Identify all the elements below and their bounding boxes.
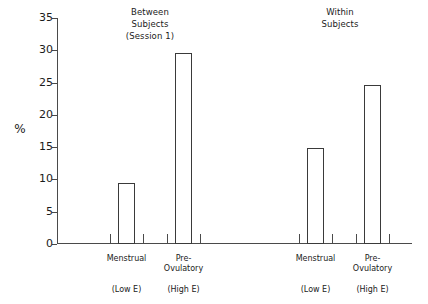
x-axis-tick bbox=[167, 234, 168, 244]
x-axis-tick bbox=[389, 234, 390, 244]
x-axis-sublabel: (High E) bbox=[333, 285, 413, 294]
y-axis-tick-label: 25 bbox=[39, 76, 53, 89]
y-axis-label: % bbox=[8, 122, 32, 136]
group-title-line: Between bbox=[95, 6, 205, 18]
bar bbox=[175, 53, 192, 244]
x-axis-category-line: Pre- bbox=[144, 254, 224, 264]
x-axis-tick bbox=[110, 234, 111, 244]
x-axis-category-line: Ovulatory bbox=[144, 264, 224, 274]
y-axis-tick-label: 10 bbox=[39, 172, 53, 185]
x-axis-category-line: Pre- bbox=[333, 254, 413, 264]
y-axis-tick-label: 20 bbox=[39, 108, 53, 121]
x-axis-tick bbox=[200, 234, 201, 244]
x-axis-tick bbox=[299, 234, 300, 244]
bar bbox=[364, 85, 381, 244]
y-axis-tick-label: 0 bbox=[46, 237, 53, 250]
y-axis-tick-label: 35 bbox=[39, 11, 53, 24]
bar bbox=[118, 183, 135, 244]
x-axis-tick bbox=[332, 234, 333, 244]
x-axis-category-label: Pre-Ovulatory bbox=[144, 254, 224, 274]
x-axis-category-line: Ovulatory bbox=[333, 264, 413, 274]
y-axis-tick-label: 5 bbox=[46, 205, 53, 218]
x-axis-tick bbox=[143, 234, 144, 244]
x-axis-tick bbox=[356, 234, 357, 244]
bar-chart-figure: % Between Subjects (Session 1) Within Su… bbox=[0, 0, 428, 304]
group-title-line: Within bbox=[285, 6, 395, 18]
y-axis-tick-label: 15 bbox=[39, 140, 53, 153]
bar bbox=[307, 148, 324, 244]
y-axis-line bbox=[57, 18, 58, 244]
y-axis-tick-label: 30 bbox=[39, 43, 53, 56]
x-axis-category-label: Pre-Ovulatory bbox=[333, 254, 413, 274]
plot-area: 05101520253035 bbox=[57, 18, 412, 244]
x-axis-sublabel: (High E) bbox=[144, 285, 224, 294]
